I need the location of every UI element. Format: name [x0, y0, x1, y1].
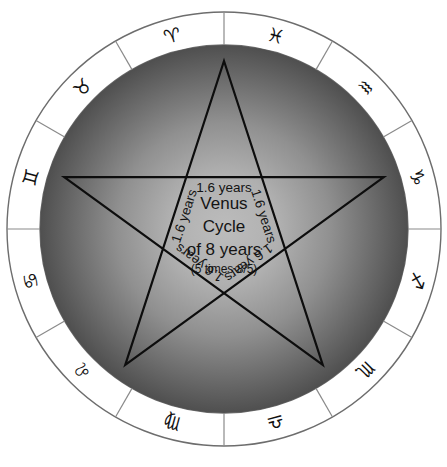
zodiac-sign-leo: ♌	[68, 357, 96, 385]
zodiac-sign-aries: ♈	[161, 22, 183, 48]
zodiac-ring-divider	[36, 121, 65, 138]
zodiac-ring-divider	[383, 321, 412, 338]
zodiac-ring-divider	[116, 388, 133, 417]
zodiac-sign-libra: ♎	[265, 410, 287, 436]
zodiac-sign-gemini: ♊	[17, 166, 43, 188]
zodiac-ring-divider	[36, 321, 65, 338]
zodiac-ring-divider	[383, 121, 412, 138]
zodiac-sign-taurus: ♉	[68, 73, 96, 101]
zodiac-sign-scorpio: ♏	[352, 357, 380, 385]
center-subtitle: (5 times 8/5)	[191, 262, 258, 276]
center-title-line-1: Venus	[200, 194, 247, 213]
venus-wheel-figure: ♈♉♊♋♌♍♎♏♐♑♒♓ 1.6 years1.6 years1.6 years…	[0, 0, 447, 467]
spoke-label-3: 1.6 years	[196, 180, 252, 195]
zodiac-sign-capricorn: ♑	[405, 166, 431, 188]
zodiac-sign-sagittarius: ♐	[405, 270, 431, 292]
zodiac-ring-divider	[316, 388, 333, 417]
zodiac-ring-divider	[116, 41, 133, 70]
center-title-line-3: of 8 years	[187, 240, 262, 259]
zodiac-sign-virgo: ♍	[161, 410, 183, 436]
zodiac-sign-cancer: ♋	[17, 270, 43, 292]
zodiac-sign-aquarius: ♒	[352, 73, 380, 101]
venus-cycle-diagram: ♈♉♊♋♌♍♎♏♐♑♒♓ 1.6 years1.6 years1.6 years…	[0, 0, 447, 467]
center-title-line-2: Cycle	[203, 217, 246, 236]
zodiac-sign-pisces: ♓	[265, 22, 287, 48]
zodiac-ring-divider	[316, 41, 333, 70]
